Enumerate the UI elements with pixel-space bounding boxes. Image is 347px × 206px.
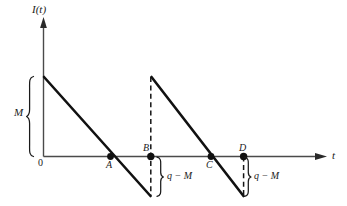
- y-axis-arrowhead: [40, 17, 47, 28]
- bracket-label-M: M: [14, 107, 23, 118]
- x-axis-arrowhead: [315, 153, 327, 160]
- x-axis-label: t: [332, 150, 335, 161]
- y-axis-label: I(t): [32, 4, 46, 15]
- brace-q-minus-M-2: [245, 157, 251, 196]
- depletion-line-cycle-2: [152, 77, 244, 196]
- bracket-label-q-minus-m-2: q − M: [254, 171, 279, 181]
- bracket-label-q-minus-m-1: q − M: [167, 171, 192, 181]
- point-label-d: D: [239, 143, 246, 153]
- depletion-line-cycle-1: [44, 77, 151, 196]
- point-label-b: B: [143, 143, 149, 153]
- brace-M: [27, 77, 34, 157]
- point-marker-D: [240, 153, 247, 160]
- point-label-a: A: [106, 160, 112, 170]
- point-marker-B: [147, 153, 154, 160]
- inventory-sawtooth-figure: I(t) t 0 M A B C D q − M q − M: [0, 0, 347, 206]
- point-label-c: C: [206, 160, 213, 170]
- origin-label: 0: [38, 158, 43, 168]
- brace-q-minus-M-1: [157, 157, 163, 196]
